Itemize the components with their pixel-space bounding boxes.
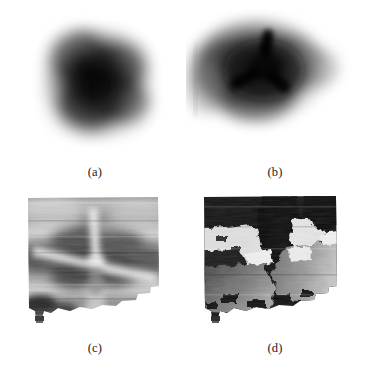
panel-c-edge-tab <box>35 316 44 323</box>
figure-root: (a) <box>0 0 368 382</box>
panel-b-image <box>186 10 351 160</box>
panel-a-image <box>22 10 172 160</box>
figure-panel-b: (b) <box>186 8 364 190</box>
figure-panel-c: (c) <box>6 190 184 375</box>
panel-b-label: (b) <box>186 166 364 179</box>
panel-d-label: (d) <box>186 342 364 355</box>
panel-a-label: (a) <box>6 166 184 179</box>
figure-panel-a: (a) <box>6 8 184 190</box>
panel-c-image <box>18 190 170 342</box>
figure-panel-d: (d) <box>186 190 364 375</box>
panel-c-label: (c) <box>6 342 184 355</box>
panel-d-image <box>192 190 348 342</box>
panel-d-edge-tab <box>211 316 220 323</box>
